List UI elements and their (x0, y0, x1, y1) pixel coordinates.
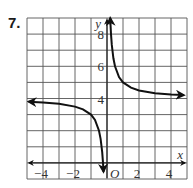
y-axis-label: y (93, 16, 101, 31)
x-tick-label: −2 (66, 166, 80, 181)
origin-label: O (110, 166, 120, 181)
chart: −4−224864xyO (0, 0, 193, 188)
x-tick-label: 4 (166, 166, 173, 181)
x-tick-label: 2 (134, 166, 141, 181)
axes (29, 20, 185, 178)
x-axis-label: x (176, 147, 183, 162)
y-tick-label: 4 (98, 92, 105, 107)
curve-left-branch (29, 102, 104, 172)
x-tick-label: −4 (34, 166, 48, 181)
y-tick-label: 6 (98, 59, 105, 74)
curves (29, 18, 184, 172)
curve-right-branch (110, 18, 184, 95)
